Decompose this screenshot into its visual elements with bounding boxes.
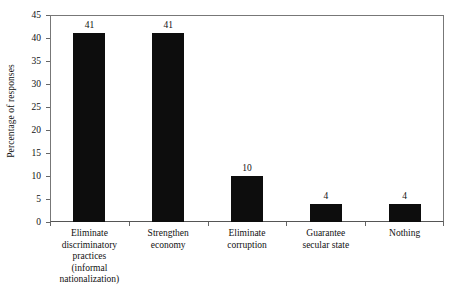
bar[interactable] [231,176,263,222]
bar[interactable] [310,204,342,222]
y-tick-label: 30 [32,78,42,91]
x-tick-mark [365,222,366,226]
bar-value-label: 10 [242,163,252,174]
x-tick-mark [443,222,444,226]
bar[interactable] [73,33,105,222]
x-axis-category-label: Nothing [353,228,455,240]
x-tick-mark [50,222,51,226]
bar-slot: 41 [50,15,129,222]
x-axis-labels: Eliminatediscriminatorypractices(informa… [50,228,444,307]
x-axis-category-label-line: practices [38,251,141,263]
x-axis-category-label-line: secular state [274,240,377,252]
y-tick-label: 0 [36,216,41,229]
y-tick-label: 45 [32,9,42,22]
x-axis-category-label-line: Nothing [353,228,455,240]
bar-value-label: 41 [163,20,173,31]
bar-chart-figure: Percentage of responses 0510152025303540… [0,0,455,307]
bar[interactable] [152,33,184,222]
y-tick-label: 40 [32,32,42,45]
bar-value-label: 4 [323,191,328,202]
y-tick-label: 20 [32,124,42,137]
y-tick-label: 25 [32,101,42,114]
y-tick-label: 35 [32,55,42,68]
bar-value-label: 41 [85,20,95,31]
bar-slot: 10 [208,15,287,222]
bar[interactable] [389,204,421,222]
y-axis-ticks: 051015202530354045 [0,15,50,222]
bar-slot: 4 [365,15,444,222]
x-axis-category-label-line: nationalization) [38,274,141,286]
x-tick-mark [129,222,130,226]
y-tick-label: 15 [32,147,42,160]
y-tick-label: 10 [32,170,42,183]
x-axis-category-label-line: (informal [38,263,141,275]
x-tick-mark [208,222,209,226]
x-axis-ticks [50,222,444,227]
bars-layer: 41411044 [50,15,444,222]
bar-slot: 41 [129,15,208,222]
y-tick-label: 5 [36,193,41,206]
bar-slot: 4 [286,15,365,222]
x-tick-mark [286,222,287,226]
bar-value-label: 4 [402,191,407,202]
